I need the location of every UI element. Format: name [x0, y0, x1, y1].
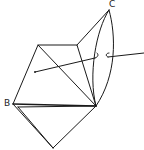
- edge-inner-bottom: [18, 107, 53, 148]
- edge-to-C: [77, 10, 109, 45]
- axis-point: [34, 71, 36, 73]
- label-B: B: [4, 99, 10, 108]
- edge-R-bottom: [53, 106, 96, 148]
- axis-hook-left: [95, 53, 98, 58]
- axis-line-left: [35, 58, 95, 72]
- arc-outer: [96, 10, 114, 106]
- edge-diagonal: [38, 45, 96, 106]
- geometry-diagram: [0, 0, 144, 150]
- edge-inner-base: [18, 106, 96, 107]
- axis-hook-right: [106, 53, 109, 57]
- label-C: C: [109, 0, 115, 9]
- edge-upper-face: [13, 45, 96, 106]
